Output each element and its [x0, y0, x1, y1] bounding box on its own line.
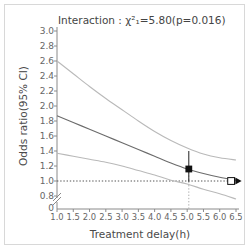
chart-container: Interaction : χ²₁=5.80(p=0.016) Odds rat… [0, 0, 251, 251]
series-line [57, 61, 236, 160]
plot-area [0, 0, 251, 251]
marker-arrow-right [235, 177, 241, 184]
marker-filled-square [185, 166, 192, 173]
marker-open-square [228, 178, 235, 185]
series-line [57, 116, 236, 181]
series-line [57, 153, 236, 199]
